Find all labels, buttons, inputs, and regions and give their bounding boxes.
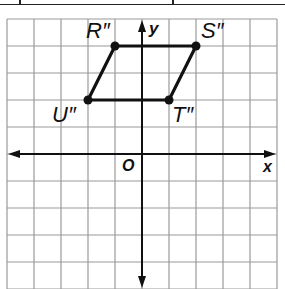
point-label-t: T″ <box>172 104 193 126</box>
point-label-u: U″ <box>52 104 76 126</box>
point-label-s: S″ <box>201 20 223 42</box>
vertex-u <box>84 96 93 105</box>
vertex-s <box>192 42 201 51</box>
coordinate-plane <box>0 0 285 289</box>
x-axis-label: x <box>263 159 272 175</box>
axes <box>8 20 276 288</box>
y-axis-label: y <box>149 20 158 37</box>
point-label-r: R″ <box>86 20 110 42</box>
vertex-r <box>111 42 120 51</box>
origin-label: O <box>122 158 134 174</box>
